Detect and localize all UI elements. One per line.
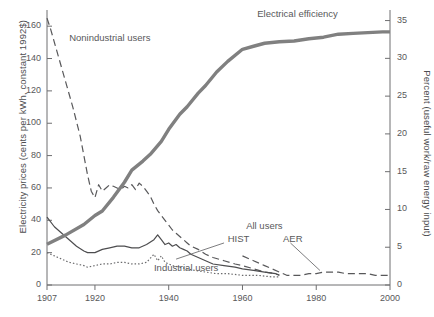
y-tick-label-right: 10 [397,203,423,213]
series-label-electrical-efficiency: Electrical efficiency [257,8,338,19]
plot-frame [47,10,390,285]
x-tick-label: 1960 [222,293,262,303]
series-label-aer: AER [283,233,303,244]
y-tick-label-right: 35 [397,15,423,25]
y-tick-label-right: 30 [397,52,423,62]
x-tick-label: 2000 [370,293,410,303]
x-tick-label: 1907 [27,293,67,303]
y-tick-label-left: 20 [15,247,41,257]
y-tick-label-left: 80 [15,150,41,160]
y-tick-label-right: 25 [397,90,423,100]
x-tick-label: 1920 [75,293,115,303]
y-axis-label-right: Percent (useful work/raw energy input) [422,69,433,239]
x-tick-label: 1940 [149,293,189,303]
y-tick-label-right: 15 [397,166,423,176]
chart-figure: Electricity prices (cents per kWh, const… [0,0,434,317]
series-label-all-users: All users [246,220,282,231]
aer-leader [290,243,320,270]
y-tick-label-right: 5 [397,241,423,251]
y-tick-label-left: 0 [15,279,41,289]
series-label-nonindustrial-users: Nonindustrial users [69,32,150,43]
hist-leader [176,243,224,259]
series-label-industrial-users: Industrial users [154,262,218,273]
y-tick-label-left: 160 [15,20,41,30]
y-tick-label-left: 100 [15,117,41,127]
y-tick-label-left: 40 [15,214,41,224]
y-tick-label-left: 60 [15,182,41,192]
y-tick-label-left: 120 [15,85,41,95]
series-label-hist: HIST [228,233,250,244]
x-tick-label: 1980 [296,293,336,303]
y-tick-label-right: 0 [397,279,423,289]
y-tick-label-left: 140 [15,53,41,63]
series-line-5 [47,32,390,244]
y-tick-label-right: 20 [397,128,423,138]
